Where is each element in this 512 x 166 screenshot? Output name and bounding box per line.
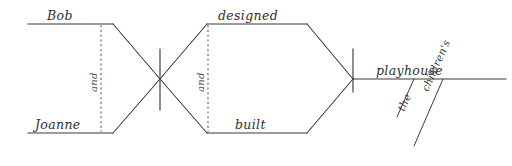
word-the: the: [395, 92, 413, 113]
word-conjunction-verbs: and: [195, 72, 206, 92]
subject-slant-lower-left: [113, 79, 160, 133]
subject-slant-upper-left: [113, 24, 160, 79]
word-designed: designed: [218, 8, 278, 23]
word-joanne: Joanne: [32, 117, 81, 132]
diagram-drawing: Bob Joanne and and designed built playho…: [0, 0, 512, 166]
word-conjunction-subjects: and: [88, 72, 99, 92]
verb-slant-upper-right: [307, 24, 353, 79]
word-built: built: [235, 117, 266, 132]
sentence-diagram-canvas: Bob Joanne and and designed built playho…: [0, 0, 512, 166]
word-bob: Bob: [46, 8, 73, 23]
verb-slant-lower-right: [307, 79, 353, 133]
verb-slant-upper-left: [160, 24, 207, 79]
